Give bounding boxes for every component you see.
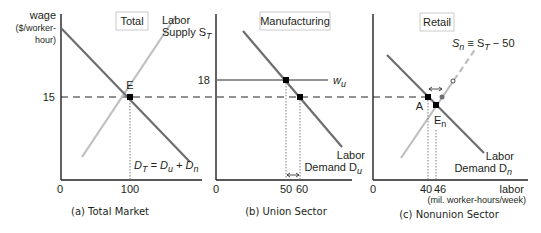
nonunion-supply-label: Sn ≡ ST − 50 bbox=[452, 37, 515, 52]
x-axis-units: (mil. worker-hours/week) bbox=[427, 195, 526, 205]
demand-label-line1: Labor bbox=[486, 150, 514, 162]
panel-box-text: Total bbox=[120, 15, 143, 27]
y-tick-18: 18 bbox=[198, 74, 210, 86]
demand-label-line2: Demand Du bbox=[304, 161, 362, 176]
x-tick-60: 60 bbox=[296, 183, 308, 195]
y-tick-15: 15 bbox=[43, 91, 55, 103]
caption-union-sector: (b) Union Sector bbox=[245, 206, 327, 217]
hollow-point bbox=[451, 79, 455, 83]
panel-union-sector: Manufacturing 18 0 50 60 wu Labor Demand… bbox=[198, 12, 366, 217]
double-arrow-icon bbox=[287, 173, 299, 177]
demand-label-line2: Demand Dn bbox=[454, 162, 512, 177]
x-axis-label: labor bbox=[500, 183, 525, 195]
demand-curve bbox=[61, 28, 190, 162]
point-a bbox=[425, 94, 431, 100]
point-en bbox=[433, 102, 439, 108]
panel-nonunion-sector: Retail A En Sn ≡ ST − 50 Labor Demand Dn… bbox=[370, 13, 528, 220]
y-axis-label-line2: ($/worker- bbox=[15, 23, 56, 33]
caption-total-market: (a) Total Market bbox=[71, 206, 149, 217]
x-tick-50: 50 bbox=[280, 183, 292, 195]
panel-total-market: wage ($/worker- hour) Total E 15 0 100 L… bbox=[15, 9, 213, 217]
demand-curve bbox=[243, 31, 342, 147]
union-employment-point bbox=[283, 77, 289, 83]
panel-box-text: Retail bbox=[423, 16, 451, 28]
x-tick-100: 100 bbox=[121, 183, 139, 195]
labor-market-diagram: wage ($/worker- hour) Total E 15 0 100 L… bbox=[0, 0, 541, 233]
point-a-label: A bbox=[416, 100, 424, 112]
y-axis-label-line3: hour) bbox=[35, 35, 56, 45]
y-axis-label-line1: wage bbox=[29, 9, 56, 21]
origin-label: 0 bbox=[370, 183, 376, 195]
origin-label: 0 bbox=[57, 183, 63, 195]
double-arrow-icon bbox=[429, 87, 442, 91]
demand-label-line1: Labor bbox=[337, 149, 365, 161]
caption-nonunion-sector: (c) Nonunion Sector bbox=[399, 209, 500, 220]
supply-at-market-wage-point bbox=[440, 95, 445, 100]
x-tick-46: 46 bbox=[434, 183, 446, 195]
panel-box-text: Manufacturing bbox=[260, 15, 330, 27]
x-tick-40: 40 bbox=[420, 183, 432, 195]
point-e-label: E bbox=[126, 79, 133, 91]
market-wage-point bbox=[297, 94, 303, 100]
demand-equation-label: DT = Du + Dn bbox=[134, 159, 198, 174]
nonunion-supply-curve-extension bbox=[454, 48, 476, 80]
supply-label-line2: Supply ST bbox=[162, 26, 213, 41]
union-wage-label: wu bbox=[333, 74, 346, 89]
equilibrium-point bbox=[127, 94, 133, 100]
supply-label-line1: Labor bbox=[162, 14, 190, 26]
origin-label: 0 bbox=[213, 183, 219, 195]
point-en-label: En bbox=[434, 114, 446, 129]
